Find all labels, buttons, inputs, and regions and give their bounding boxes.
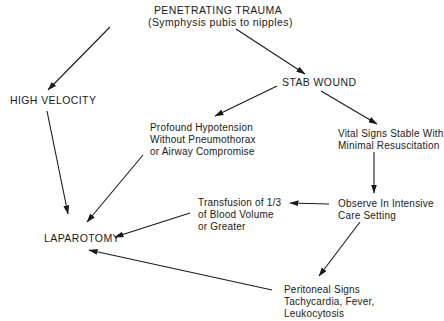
node-penetrating-trauma: PENETRATING TRAUMA (Symphysis pubis to n… xyxy=(148,4,288,28)
edge-observe-to-transfusion xyxy=(290,203,329,204)
node-vital-signs-stable: Vital Signs Stable With Minimal Resuscit… xyxy=(338,128,444,152)
edge-high-velocity-to-laparotomy xyxy=(47,111,68,214)
node-text: Vital Signs Stable With xyxy=(338,128,444,140)
node-text: PENETRATING TRAUMA xyxy=(148,4,288,16)
node-text: HIGH VELOCITY xyxy=(10,94,96,106)
edge-root-to-high-velocity xyxy=(48,27,110,90)
node-stab-wound: STAB WOUND xyxy=(282,76,356,88)
node-profound-hypotension: Profound Hypotension Without Pneumothora… xyxy=(150,122,256,158)
node-text: Leukocytosis xyxy=(284,308,375,320)
node-text: STAB WOUND xyxy=(282,76,356,88)
edge-peritoneal-to-laparotomy xyxy=(89,250,272,290)
edge-root-to-stab-wound xyxy=(236,29,305,74)
node-high-velocity: HIGH VELOCITY xyxy=(10,94,96,106)
node-text: of Blood Volume xyxy=(198,209,281,221)
edge-observe-to-peritoneal xyxy=(319,222,360,276)
node-text: Profound Hypotension xyxy=(150,122,256,134)
node-peritoneal-signs: Peritoneal Signs Tachycardia, Fever, Leu… xyxy=(284,284,375,320)
edge-hypotension-to-laparotomy xyxy=(87,155,143,222)
node-text: or Airway Compromise xyxy=(150,146,256,158)
node-text: LAPAROTOMY xyxy=(44,232,120,244)
node-text: Peritoneal Signs xyxy=(284,284,375,296)
edge-stab-wound-to-hypotension xyxy=(215,86,277,116)
node-laparotomy: LAPAROTOMY xyxy=(44,232,120,244)
node-subtext: (Symphysis pubis to nipples) xyxy=(148,16,288,28)
node-text: Without Pneumothorax xyxy=(150,134,256,146)
node-text: Tachycardia, Fever, xyxy=(284,296,375,308)
node-text: Transfusion of 1/3 xyxy=(198,197,281,209)
node-text: Observe In Intensive xyxy=(338,198,434,210)
node-observe-icu: Observe In Intensive Care Setting xyxy=(338,198,434,222)
node-text: Care Setting xyxy=(338,210,434,222)
node-text: or Greater xyxy=(198,221,281,233)
node-text: Minimal Resuscitation xyxy=(338,140,444,152)
node-transfusion: Transfusion of 1/3 of Blood Volume or Gr… xyxy=(198,197,281,233)
edge-transfusion-to-laparotomy xyxy=(115,213,190,237)
edge-stab-wound-to-vital-signs xyxy=(321,91,377,124)
